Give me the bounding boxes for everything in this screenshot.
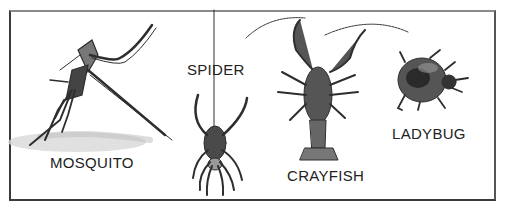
crayfish-illustration bbox=[246, 18, 408, 160]
ladybug-label: LADYBUG bbox=[392, 125, 466, 142]
crayfish-label: CRAYFISH bbox=[287, 167, 364, 184]
mosquito-illustration bbox=[8, 25, 172, 152]
mosquito-label: MOSQUITO bbox=[50, 154, 134, 171]
spider-label: SPIDER bbox=[187, 61, 245, 78]
ladybug-illustration bbox=[398, 50, 468, 110]
creature-illustrations bbox=[0, 0, 505, 209]
spider-illustration bbox=[193, 10, 247, 195]
